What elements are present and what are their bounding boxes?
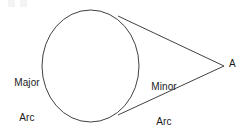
point-a-label: A bbox=[229, 58, 241, 70]
minor-arc-label-line2: Arc bbox=[146, 116, 182, 128]
major-arc-label-line2: Arc bbox=[8, 112, 46, 124]
minor-arc-label-line1: Minor bbox=[146, 81, 182, 93]
major-arc-label: Major Arc bbox=[8, 54, 46, 130]
circle-shape bbox=[42, 10, 139, 122]
major-arc-label-line1: Major bbox=[8, 77, 46, 89]
geometry-figure: Major Arc Minor Arc A bbox=[0, 0, 243, 130]
minor-arc-label: Minor Arc bbox=[146, 58, 182, 130]
